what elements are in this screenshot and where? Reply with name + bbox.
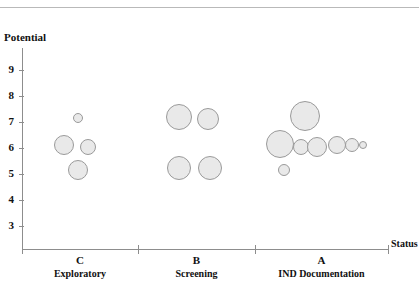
- data-bubble: [73, 113, 83, 123]
- data-bubble: [266, 130, 294, 158]
- data-bubble: [80, 139, 96, 155]
- data-bubble: [345, 138, 359, 152]
- data-bubble: [167, 156, 191, 180]
- data-bubble: [68, 160, 88, 180]
- data-bubble: [198, 156, 222, 180]
- bubble-chart: Potential Status 9876543 CExploratoryBSc…: [0, 0, 419, 294]
- data-bubble: [359, 141, 367, 149]
- data-bubble: [328, 136, 346, 154]
- bubble-plot-area: [0, 0, 419, 294]
- data-bubble: [166, 104, 192, 130]
- data-bubble: [307, 137, 327, 157]
- data-bubble: [290, 101, 320, 131]
- data-bubble: [278, 164, 290, 176]
- data-bubble: [54, 135, 74, 155]
- data-bubble: [197, 108, 219, 130]
